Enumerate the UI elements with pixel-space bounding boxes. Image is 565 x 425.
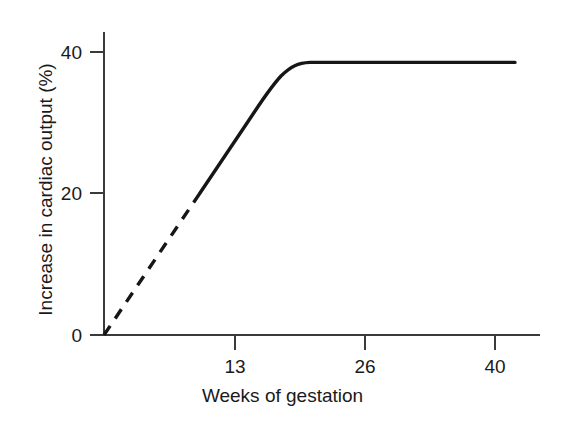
- y-axis-title: Increase in cardiac output (%): [36, 30, 55, 350]
- cardiac-output-curve-dashed: [104, 193, 200, 335]
- x-axis-title: Weeks of gestation: [0, 386, 565, 405]
- cardiac-output-chart: 40 20 0 13 26 40 Weeks of gestation Incr…: [0, 0, 565, 425]
- cardiac-output-curve-solid: [200, 62, 515, 193]
- x-tick-label-26: 26: [354, 357, 375, 376]
- x-tick-label-13: 13: [224, 357, 245, 376]
- chart-plot-area: [0, 0, 565, 425]
- x-tick-label-40: 40: [484, 357, 505, 376]
